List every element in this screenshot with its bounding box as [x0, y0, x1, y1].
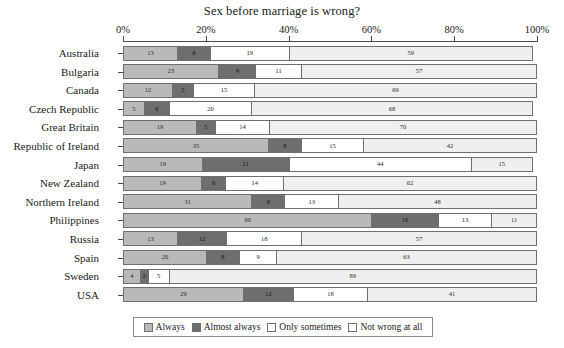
stacked-bar: 3181348 — [123, 194, 537, 209]
bar-segment-value: 5 — [157, 273, 160, 280]
chart-row: Northern Ireland3181348 — [0, 193, 564, 212]
bar-segment: 60 — [123, 213, 371, 228]
x-axis-tick-mark — [454, 36, 455, 42]
bar-segment-value: 9 — [236, 68, 239, 75]
bar-segment-value: 13 — [147, 236, 154, 243]
bar-segment: 18 — [293, 287, 368, 302]
bar-segment-value: 60 — [244, 217, 251, 224]
legend-item[interactable]: Not wrong at all — [348, 322, 422, 332]
bar-segment: 8 — [268, 138, 301, 153]
legend-item[interactable]: Always — [144, 322, 185, 332]
chart-row: New Zealand1961462 — [0, 174, 564, 193]
stacked-bar: 562068 — [123, 101, 537, 116]
bar-segment: 57 — [301, 64, 537, 79]
bar-segment: 11 — [491, 213, 537, 228]
bar-segment-value: 42 — [447, 143, 454, 150]
stacked-bar: 1381959 — [123, 46, 537, 61]
bar-segment-value: 19 — [160, 161, 167, 168]
legend-swatch-icon — [348, 323, 357, 332]
bar-segment-value: 18 — [261, 236, 268, 243]
bar-segment: 8 — [251, 194, 284, 209]
stacked-bar-chart: Sex before marriage is wrong? 0%20%40%60… — [0, 0, 564, 348]
stacked-bar: 19214415 — [123, 157, 537, 172]
category-label: New Zealand — [0, 174, 99, 193]
bar-segment-value: 6 — [212, 180, 215, 187]
stacked-bar: 1251569 — [123, 83, 537, 98]
bar-segment-value: 15 — [499, 161, 506, 168]
stacked-bar: 42589 — [123, 269, 537, 284]
bar-segment-value: 62 — [407, 180, 414, 187]
x-axis-tick-mark — [123, 36, 124, 42]
stacked-bar: 3581542 — [123, 138, 537, 153]
bar-segment: 19 — [123, 176, 201, 191]
stacked-bar: 60161311 — [123, 213, 537, 228]
bar-segment-value: 57 — [416, 68, 423, 75]
bar-segment-value: 14 — [251, 180, 258, 187]
bar-segment-value: 12 — [199, 236, 206, 243]
bar-segment-value: 13 — [462, 217, 469, 224]
legend-label: Almost always — [204, 322, 261, 332]
bar-segment: 5 — [196, 120, 215, 135]
x-axis-tick-label: 100% — [525, 24, 550, 35]
bar-segment-value: 16 — [402, 217, 409, 224]
category-label: Czech Republic — [0, 100, 99, 119]
bar-segment: 9 — [218, 64, 255, 79]
bar-segment-value: 12 — [265, 291, 272, 298]
bar-segment: 42 — [363, 138, 537, 153]
legend-swatch-icon — [192, 323, 201, 332]
bar-segment: 6 — [201, 176, 226, 191]
bar-segment-value: 29 — [180, 291, 187, 298]
chart-row: Bulgaria2391157 — [0, 63, 564, 82]
bar-segment-value: 2 — [143, 273, 146, 280]
legend-label: Only sometimes — [279, 322, 341, 332]
category-label: Australia — [0, 44, 99, 63]
category-label: Canada — [0, 81, 99, 100]
bar-segment-value: 31 — [184, 199, 191, 206]
bar-segment: 15 — [301, 138, 363, 153]
bar-segment: 6 — [144, 101, 169, 116]
bar-segment-value: 14 — [239, 124, 246, 131]
x-axis-tick-label: 80% — [445, 24, 464, 35]
bar-segment-value: 19 — [157, 124, 164, 131]
bar-segment-value: 15 — [221, 87, 228, 94]
bar-segment-value: 20 — [162, 254, 169, 261]
chart-row: Philippines60161311 — [0, 211, 564, 230]
x-axis-tick-mark — [537, 36, 538, 42]
bar-segment: 5 — [172, 83, 192, 98]
bar-segment: 13 — [284, 194, 338, 209]
category-label: Philippines — [0, 211, 99, 230]
chart-row: Canada1251569 — [0, 81, 564, 100]
chart-row: USA29121841 — [0, 286, 564, 305]
bar-segment-value: 12 — [145, 87, 152, 94]
bar-segment: 19 — [123, 157, 202, 172]
legend-item[interactable]: Almost always — [192, 322, 261, 332]
bar-segment: 8 — [206, 250, 239, 265]
category-label: Japan — [0, 156, 99, 175]
x-axis-tick-mark — [206, 36, 207, 42]
x-axis-line — [123, 41, 537, 42]
bar-segment-value: 48 — [434, 199, 441, 206]
bar-segment: 8 — [177, 46, 210, 61]
bar-segment-value: 8 — [283, 143, 286, 150]
bar-segment-value: 20 — [207, 106, 214, 113]
bar-segment: 9 — [239, 250, 276, 265]
bar-segment-value: 41 — [449, 291, 456, 298]
bar-segment: 13 — [123, 231, 177, 246]
legend-item[interactable]: Only sometimes — [267, 322, 341, 332]
bar-segment-value: 70 — [400, 124, 407, 131]
x-axis-tick-labels: 0%20%40%60%80%100% — [0, 24, 564, 38]
bar-segment-value: 4 — [130, 273, 133, 280]
bar-segment: 69 — [254, 83, 537, 98]
bar-segment: 23 — [123, 64, 218, 79]
bar-segment: 20 — [169, 101, 252, 116]
bar-segment-value: 11 — [276, 68, 282, 75]
bar-segment: 29 — [123, 287, 243, 302]
bar-segment: 13 — [438, 213, 492, 228]
bar-segment: 19 — [210, 46, 289, 61]
x-axis-tick-label: 20% — [196, 24, 215, 35]
legend-label: Always — [156, 322, 185, 332]
legend-label: Not wrong at all — [360, 322, 422, 332]
x-axis-tick-label: 60% — [362, 24, 381, 35]
chart-legend: AlwaysAlmost alwaysOnly sometimesNot wro… — [133, 317, 433, 337]
bar-segment-value: 63 — [403, 254, 410, 261]
